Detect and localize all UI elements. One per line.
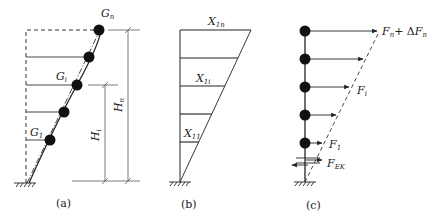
ground-support-icon: [294, 182, 316, 186]
dimension-lines: [72, 27, 140, 184]
panel-c: Fn+ ΔFn Fi F1 FEK (c): [292, 25, 427, 212]
mass-2: [300, 110, 311, 121]
mass-1: [300, 138, 311, 149]
label-f-ek: FEK: [326, 157, 346, 171]
mass-2: [59, 107, 70, 118]
label-g-n: Gn: [101, 7, 115, 21]
label-f-n-plus-delta: Fn+ ΔFn: [381, 25, 427, 39]
mass-4: [300, 54, 311, 65]
caption-a: (a): [56, 197, 71, 210]
mass-4: [84, 52, 95, 63]
ground-support-icon: [169, 182, 191, 186]
label-h-i: Hi: [89, 129, 103, 142]
mass-n: [300, 26, 311, 37]
panel-a: Gn Gi G1 Hi Hn (a): [14, 7, 140, 210]
mass-n: [94, 25, 105, 36]
label-f-i: Fi: [356, 84, 367, 98]
force-arrows: [305, 31, 377, 143]
mass-i: [72, 80, 83, 91]
label-x-1i: X1i: [195, 72, 211, 86]
label-g-i: Gi: [56, 70, 67, 84]
floor-lines: [180, 30, 251, 142]
caption-c: (c): [306, 199, 321, 212]
base-shear-symbol: [292, 158, 322, 165]
label-h-n: Hn: [112, 97, 126, 113]
panel-b: X1n X1i X11 (b): [169, 15, 251, 211]
seismic-diagram: Gn Gi G1 Hi Hn (a) X1n X1i X11 (b): [0, 0, 431, 222]
label-g-1: G1: [30, 126, 43, 140]
force-envelope-line: [305, 32, 379, 182]
label-f-1: F1: [328, 138, 341, 152]
label-x-1n: X1n: [207, 15, 225, 29]
mode-shape-line: [180, 30, 251, 182]
caption-b: (b): [181, 198, 197, 211]
ground-support-icon: [14, 183, 36, 187]
mass-i: [300, 82, 311, 93]
mass-1: [45, 135, 56, 146]
label-x-11: X11: [183, 127, 201, 141]
